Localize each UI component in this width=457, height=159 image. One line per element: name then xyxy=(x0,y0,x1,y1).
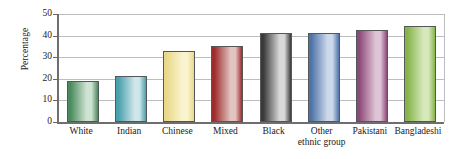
x-axis-tick-labels: WhiteIndianChineseMixedBlackOtherethnic … xyxy=(57,126,442,159)
x-tick-label-line: Indian xyxy=(117,126,141,136)
y-tick-label: 0 xyxy=(30,117,52,127)
y-tick-label: 10 xyxy=(30,96,52,106)
bar xyxy=(260,33,292,122)
bar xyxy=(308,33,340,122)
bar xyxy=(404,26,436,122)
bars-layer xyxy=(59,14,444,122)
x-tick-label-line: Mixed xyxy=(213,126,238,136)
x-tick-label: Bangladeshi xyxy=(390,126,446,137)
plot-area xyxy=(57,14,444,124)
x-tick-label-line: Pakistani xyxy=(352,126,387,136)
y-tick-label: 30 xyxy=(30,52,52,62)
bar xyxy=(356,30,388,122)
x-tick-label-line: Chinese xyxy=(162,126,193,136)
bar-chart: Percentage 01020304050 WhiteIndianChines… xyxy=(0,0,457,159)
y-axis-tick-labels: 01020304050 xyxy=(30,0,52,159)
plot-right-border xyxy=(444,14,445,122)
x-tick-label-line: ethnic group xyxy=(294,137,350,148)
y-tick-label: 20 xyxy=(30,74,52,84)
x-tick-label-line: Black xyxy=(262,126,284,136)
y-tick-label: 50 xyxy=(30,9,52,19)
x-tick-label-line: Bangladeshi xyxy=(394,126,441,136)
bar xyxy=(211,46,243,122)
bar xyxy=(163,51,195,122)
x-tick-label-line: Other xyxy=(311,126,333,136)
y-tick-label: 40 xyxy=(30,31,52,41)
bar xyxy=(67,81,99,122)
y-axis-title: Percentage xyxy=(20,3,30,95)
x-tick-label-line: White xyxy=(69,126,92,136)
bar xyxy=(115,76,147,122)
